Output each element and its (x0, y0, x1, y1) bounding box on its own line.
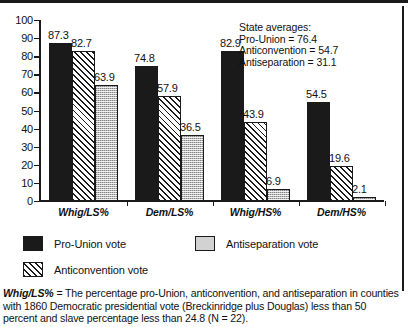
bar-demhs-hatch (330, 166, 353, 201)
legend-item-anticonvention: Anticonvention vote (23, 262, 148, 277)
x-label-demhs: Dem/HS% (299, 207, 385, 218)
x-tickmark-4 (385, 201, 386, 206)
x-tickmark-1 (127, 201, 128, 206)
y-tick-10: 10 (3, 178, 33, 189)
plot-area: 0102030405060708090100 87.382.763.974.85… (3, 6, 404, 218)
legend-label-pro-union: Pro-Union vote (54, 238, 126, 250)
y-tickmark-40 (34, 129, 40, 130)
bar-whigls-hatch (72, 51, 95, 201)
bar-value-label: 74.8 (134, 53, 155, 64)
caption-term: Whig/LS% (3, 287, 54, 299)
x-tickmark-3 (299, 201, 300, 206)
y-tick-60: 60 (3, 87, 33, 98)
bar-demls-hatch (158, 96, 181, 201)
legend-swatch-solid-icon (23, 236, 43, 251)
y-axis-tick-labels: 0102030405060708090100 (3, 20, 33, 200)
figure-caption: Whig/LS% = The percentage pro-Union, ant… (3, 287, 399, 325)
bar-value-label: 63.9 (94, 72, 115, 83)
bar-demls-dotted (181, 135, 204, 201)
bar-value-label: 2.1 (352, 184, 367, 195)
legend-swatch-hatch-icon (23, 262, 43, 277)
y-tickmark-60 (34, 92, 40, 93)
bar-value-label: 82.7 (71, 38, 92, 49)
y-tickmark-20 (34, 165, 40, 166)
legend-label-antiseparation: Antiseparation vote (226, 238, 318, 250)
y-tick-100: 100 (3, 15, 33, 26)
y-tickmark-0 (34, 201, 40, 202)
bar-whighs-solid (221, 51, 244, 201)
x-label-demls: Dem/LS% (127, 207, 213, 218)
bar-value-label: 36.5 (180, 122, 201, 133)
top-rule (0, 0, 408, 3)
caption-text: = The percentage pro-Union, anticonventi… (3, 287, 399, 324)
y-tick-50: 50 (3, 106, 33, 117)
y-tickmark-90 (34, 38, 40, 39)
y-tick-80: 80 (3, 51, 33, 62)
y-tick-70: 70 (3, 69, 33, 80)
legend: Pro-Union vote Antiseparation vote Antic… (3, 234, 404, 286)
y-tickmark-30 (34, 147, 40, 148)
state-averages-title: State averages: (239, 22, 338, 34)
x-label-whighs: Whig/HS% (213, 207, 299, 218)
chart-frame: 0102030405060708090100 87.382.763.974.85… (3, 6, 404, 291)
bar-whighs-dotted (267, 189, 290, 201)
bar-whighs-hatch (244, 122, 267, 201)
x-label-whigls: Whig/LS% (41, 207, 127, 218)
legend-swatch-dotted-icon (195, 236, 215, 251)
bar-value-label: 19.6 (329, 153, 350, 164)
bar-value-label: 87.3 (48, 30, 69, 41)
bar-whigls-solid (49, 43, 72, 201)
state-averages-note: State averages: Pro-Union = 76.4 Anticon… (239, 22, 338, 68)
x-tickmark-2 (213, 201, 214, 206)
bar-demls-solid (135, 66, 158, 201)
legend-item-antiseparation: Antiseparation vote (195, 236, 318, 251)
bar-value-label: 43.9 (243, 109, 264, 120)
y-tickmark-50 (34, 111, 40, 112)
bar-whigls-dotted (95, 85, 118, 201)
y-tickmark-10 (34, 183, 40, 184)
bar-group-1: 87.382.763.9 (41, 20, 127, 201)
y-tick-40: 40 (3, 124, 33, 135)
bar-value-label: 57.9 (157, 83, 178, 94)
y-tick-90: 90 (3, 33, 33, 44)
y-tick-0: 0 (3, 196, 33, 207)
bar-demhs-dotted (353, 197, 376, 201)
bar-value-label: 54.5 (306, 89, 327, 100)
y-tick-30: 30 (3, 142, 33, 153)
bar-group-2: 74.857.936.5 (127, 20, 213, 201)
state-average-antiseparation: Antiseparation = 31.1 (239, 57, 338, 69)
legend-label-anticonvention: Anticonvention vote (54, 264, 148, 276)
bar-value-label: 82.9 (220, 38, 241, 49)
legend-item-pro-union: Pro-Union vote (23, 236, 126, 251)
figure-root: 0102030405060708090100 87.382.763.974.85… (0, 0, 408, 327)
y-tick-20: 20 (3, 160, 33, 171)
bar-value-label: 6.9 (266, 176, 281, 187)
bar-demhs-solid (307, 102, 330, 201)
y-tickmark-70 (34, 74, 40, 75)
y-tickmark-100 (34, 20, 40, 21)
y-tickmark-80 (34, 56, 40, 57)
